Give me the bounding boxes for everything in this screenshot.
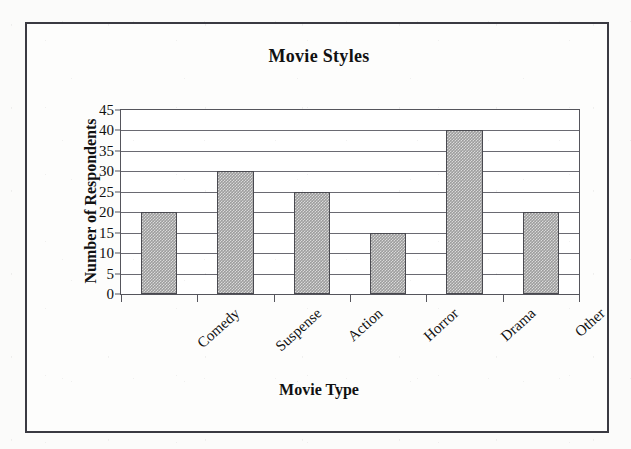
bar-horror <box>370 233 407 294</box>
bar-drama <box>446 130 483 294</box>
y-axis-title: Number of Respondents <box>82 91 100 311</box>
gridline <box>121 171 579 172</box>
plot-area: 051015202530354045 ComedySuspenseActionH… <box>120 109 580 295</box>
chart-figure-frame: Movie Styles Number of Respondents 05101… <box>25 22 609 433</box>
category-tick-mark <box>350 294 351 302</box>
category-tick-mark <box>197 294 198 302</box>
gridline <box>121 212 579 213</box>
category-label-other: Other <box>572 305 609 340</box>
y-axis-tick-label: 40 <box>99 123 114 138</box>
chart-title: Movie Styles <box>27 46 611 67</box>
y-axis-tick-label: 45 <box>99 103 114 118</box>
y-axis-tick-mark <box>115 232 121 233</box>
y-axis-tick-label: 5 <box>107 266 115 281</box>
y-axis-tick-label: 10 <box>99 246 114 261</box>
y-axis-tick-mark <box>115 130 121 131</box>
category-tick-mark <box>121 294 122 302</box>
category-tick-mark <box>503 294 504 302</box>
y-axis-tick-mark <box>115 191 121 192</box>
category-tick-mark <box>579 294 580 302</box>
category-tick-mark <box>426 294 427 302</box>
y-axis-tick-label: 20 <box>99 205 114 220</box>
y-axis-tick-mark <box>115 253 121 254</box>
bar-other <box>523 212 560 294</box>
y-axis-tick-label: 30 <box>99 164 114 179</box>
category-label-action: Action <box>344 305 386 345</box>
y-axis-tick-mark <box>115 110 121 111</box>
y-axis-tick-mark <box>115 212 121 213</box>
y-axis-tick-mark <box>115 171 121 172</box>
y-axis-tick-mark <box>115 150 121 151</box>
category-label-drama: Drama <box>497 305 539 345</box>
y-axis-tick-label: 35 <box>99 143 114 158</box>
category-label-comedy: Comedy <box>194 305 243 352</box>
bar-comedy <box>141 212 178 294</box>
gridline <box>121 253 579 254</box>
x-axis-title: Movie Type <box>27 381 611 399</box>
y-axis-tick-mark <box>115 273 121 274</box>
y-axis-tick-label: 0 <box>107 287 115 302</box>
gridline <box>121 130 579 131</box>
category-tick-mark <box>274 294 275 302</box>
y-axis-tick-label: 25 <box>99 184 114 199</box>
gridline <box>121 233 579 234</box>
bar-action <box>294 192 331 294</box>
category-label-suspense: Suspense <box>272 305 325 355</box>
gridline <box>121 192 579 193</box>
y-axis-tick-label: 15 <box>99 225 114 240</box>
bar-suspense <box>217 171 254 294</box>
gridline <box>121 151 579 152</box>
category-label-horror: Horror <box>421 305 463 345</box>
gridline <box>121 274 579 275</box>
